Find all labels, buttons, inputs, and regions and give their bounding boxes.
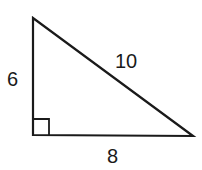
right-angle-marker	[33, 119, 49, 135]
right-triangle	[33, 18, 193, 136]
left-leg-label: 6	[7, 69, 18, 89]
triangle-diagram	[0, 0, 202, 170]
bottom-leg-label: 8	[107, 146, 118, 166]
hypotenuse-label: 10	[115, 51, 137, 71]
